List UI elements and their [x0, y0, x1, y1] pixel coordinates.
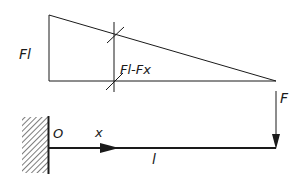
moment-diagram	[49, 15, 276, 92]
max-moment-label: Fl	[19, 47, 31, 61]
force-arrowhead	[272, 134, 280, 149]
force-label: F	[280, 91, 288, 105]
moment-slope-line	[49, 15, 276, 81]
beam	[48, 143, 276, 153]
force-arrow	[272, 91, 280, 149]
fixed-support	[22, 116, 49, 174]
section-tick-top	[107, 27, 124, 43]
length-label: l	[152, 152, 156, 166]
position-x-label: x	[95, 126, 103, 139]
wall-hatch	[22, 117, 48, 173]
x-direction-arrowhead	[100, 143, 119, 153]
section-moment-label: Fl-Fx	[120, 63, 151, 76]
origin-label: O	[53, 127, 63, 140]
cantilever-moment-diagram	[0, 0, 302, 190]
